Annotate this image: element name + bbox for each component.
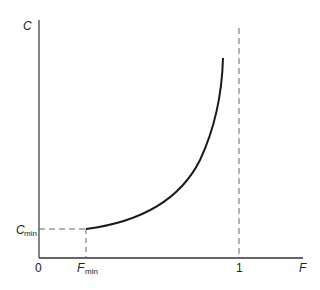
x-axis-label: F (299, 261, 307, 275)
svg-text:min: min (85, 267, 98, 276)
cost-vs-fraction-diagram: C F 0 1 F min C min (0, 0, 320, 290)
f-min-label: F min (77, 261, 98, 276)
c-min-label: C min (16, 223, 37, 238)
origin-label: 0 (35, 261, 42, 275)
one-tick-label: 1 (236, 261, 243, 275)
cost-curve (86, 58, 223, 229)
svg-text:F: F (77, 261, 85, 275)
svg-text:min: min (24, 229, 37, 238)
y-axis-label: C (23, 19, 32, 33)
